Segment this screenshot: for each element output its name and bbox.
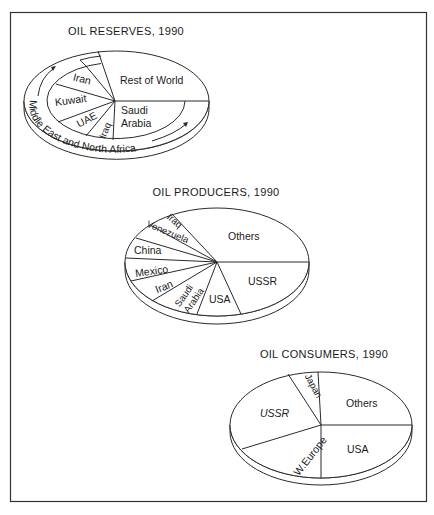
label-usa: USA <box>209 293 231 305</box>
label-others: Others <box>346 397 378 409</box>
label-ussr: USSR <box>248 275 278 287</box>
label-saudi: Saudi <box>121 104 148 116</box>
consumers-title: OIL CONSUMERS, 1990 <box>260 348 388 360</box>
label-usa: USA <box>347 443 369 455</box>
reserves-title: OIL RESERVES, 1990 <box>68 25 184 37</box>
figure: OIL RESERVES, 1990 Rest of World Iran Ku… <box>0 0 434 515</box>
label-others: Others <box>228 230 260 242</box>
label-rest-of-world: Rest of World <box>120 74 184 86</box>
label-china: China <box>134 244 162 256</box>
producers-title: OIL PRODUCERS, 1990 <box>153 186 280 198</box>
label-arabia: Arabia <box>121 117 152 129</box>
label-ussr: USSR <box>260 407 290 419</box>
